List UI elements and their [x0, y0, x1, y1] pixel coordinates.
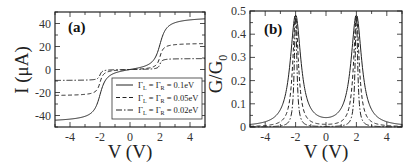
b-x-axis-title: V (V)	[304, 141, 349, 163]
b-y-tick-label: 0.4	[231, 27, 246, 41]
a-x-tick-label: -2	[95, 130, 105, 144]
b-y-tick-label: 0	[240, 120, 246, 134]
a-x-tick-label: 4	[187, 130, 193, 144]
b-y-tick-label: 0.1	[231, 97, 246, 111]
legend-entry: ΓL = ΓR = 0.05eV	[138, 93, 199, 104]
b-x-tick-label: -4	[260, 130, 270, 144]
b-x-tick-label: 4	[384, 130, 390, 144]
svg-text:G/G0: G/G0	[205, 55, 230, 94]
b-y-tick-label: 0.2	[231, 74, 246, 88]
a-y-tick-label: 40	[39, 17, 51, 31]
a-y-tick-label: 0	[45, 63, 51, 77]
b-y-tick-label: 0.5	[231, 4, 246, 18]
a-x-axis-title: V (V)	[108, 141, 153, 163]
a-y-tick-label: -40	[35, 109, 51, 123]
panel-b-conductance: -4-202400.10.20.30.40.5 (b) V (V) G/G0	[205, 4, 402, 163]
a-x-tick-label: -4	[65, 130, 75, 144]
figure: -4-2024-40-2002040 (a) V (V) I (μA) ΓL =…	[0, 0, 418, 165]
legend-entry: ΓL = ΓR = 0.02eV	[138, 105, 199, 116]
b-x-tick-label: -2	[291, 130, 301, 144]
b-y-tick-label: 0.3	[231, 50, 246, 64]
b-y-axis-title-main: G/G	[205, 60, 226, 93]
b-x-tick-label: 2	[353, 130, 359, 144]
a-y-axis-title: I (μA)	[11, 46, 33, 94]
legend-entry: ΓL = ΓR = 0.1eV	[138, 80, 195, 91]
a-panel-label: (a)	[68, 19, 86, 36]
a-x-tick-label: 2	[157, 130, 163, 144]
b-panel-label: (b)	[264, 21, 282, 38]
b-y-axis-title-sub: 0	[216, 55, 230, 61]
a-y-tick-label: 20	[39, 40, 51, 54]
panel-a-iv-curve: -4-2024-40-2002040 (a) V (V) I (μA) ΓL =…	[11, 12, 205, 163]
a-y-tick-label: -20	[35, 86, 51, 100]
a-legend: ΓL = ΓR = 0.1eVΓL = ΓR = 0.05eVΓL = ΓR =…	[112, 78, 202, 119]
b-y-axis-title: G/G0	[205, 55, 230, 94]
